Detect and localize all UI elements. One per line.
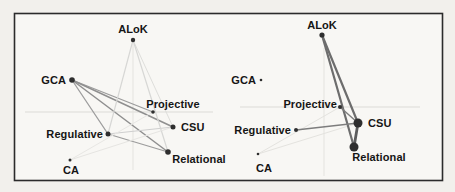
node-dot-gca xyxy=(260,79,263,82)
node-label-gca: GCA xyxy=(231,74,256,86)
node-label-relational: Relational xyxy=(352,151,406,163)
node-label-csu: CSU xyxy=(368,117,392,129)
network-comparison-figure: ALoKGCAProjectiveCSURegulativeRelational… xyxy=(0,0,455,192)
node-label-relational: Relational xyxy=(172,153,226,165)
node-label-gca: GCA xyxy=(41,74,66,86)
node-label-csu: CSU xyxy=(181,121,205,133)
node-label-alok: ALoK xyxy=(307,19,337,31)
node-dot-csu xyxy=(354,119,363,128)
node-label-regulative: Regulative xyxy=(234,124,291,136)
node-label-ca: CA xyxy=(256,162,272,174)
node-dot-alok xyxy=(319,32,324,37)
node-dot-gca xyxy=(69,77,75,83)
node-label-projective: Projective xyxy=(146,98,200,110)
node-dot-alok xyxy=(131,38,135,42)
node-dot-projective xyxy=(151,110,155,114)
node-dot-ca xyxy=(257,153,260,156)
node-dot-regulative xyxy=(106,132,111,137)
node-label-projective: Projective xyxy=(283,98,337,110)
node-dot-csu xyxy=(171,125,176,130)
network-figure-canvas: ALoKGCAProjectiveCSURegulativeRelational… xyxy=(0,0,455,192)
node-label-ca: CA xyxy=(63,164,79,176)
node-dot-regulative xyxy=(294,128,298,132)
node-label-alok: ALoK xyxy=(118,23,148,35)
node-dot-relational xyxy=(165,149,171,155)
node-dot-ca xyxy=(69,159,72,162)
node-dot-projective xyxy=(338,105,342,109)
node-label-regulative: Regulative xyxy=(46,128,103,140)
